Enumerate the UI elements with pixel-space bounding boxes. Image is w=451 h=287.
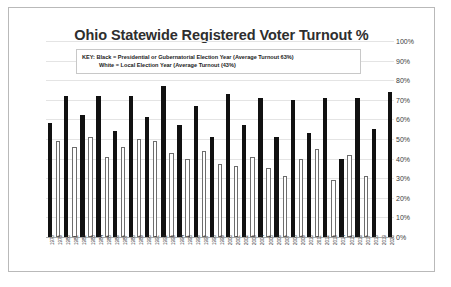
bar-2016 bbox=[355, 98, 359, 237]
bar-1998 bbox=[210, 137, 214, 237]
x-tick-slot: 2012 bbox=[321, 239, 329, 269]
x-tick-slot: 2009 bbox=[297, 239, 305, 269]
bar-1992 bbox=[161, 86, 165, 237]
x-tick-slot: 2001 bbox=[232, 239, 240, 269]
bar-slot bbox=[386, 41, 394, 237]
x-tick-slot: 1984 bbox=[95, 239, 103, 269]
y-tick-label: 20% bbox=[396, 194, 410, 201]
x-tick-slot: 1986 bbox=[111, 239, 119, 269]
x-tick-slot: 2017 bbox=[362, 239, 370, 269]
x-tick-slot: 2013 bbox=[329, 239, 337, 269]
bar-2010 bbox=[307, 133, 311, 237]
y-tick-label: 100% bbox=[396, 38, 414, 45]
bar-1991 bbox=[153, 141, 157, 237]
x-tick-slot: 1998 bbox=[208, 239, 216, 269]
x-tick-label: 2020 bbox=[390, 235, 395, 245]
bar-2001 bbox=[234, 166, 238, 237]
bar-1986 bbox=[113, 131, 117, 237]
bar-1997 bbox=[202, 151, 206, 237]
x-tick-slot: 2015 bbox=[345, 239, 353, 269]
bar-2015 bbox=[347, 155, 351, 237]
bar-2012 bbox=[323, 98, 327, 237]
x-tick-slot: 1996 bbox=[192, 239, 200, 269]
bar-1980 bbox=[64, 96, 68, 237]
bar-1981 bbox=[72, 147, 76, 237]
x-tick-slot: 2000 bbox=[224, 239, 232, 269]
bar-1985 bbox=[105, 157, 109, 237]
bar-1988 bbox=[129, 96, 133, 237]
x-tick-slot: 1994 bbox=[176, 239, 184, 269]
x-tick-slot: 2005 bbox=[265, 239, 273, 269]
bar-2002 bbox=[242, 125, 246, 237]
bar-slot bbox=[370, 41, 378, 237]
x-tick-slot: 2004 bbox=[256, 239, 264, 269]
x-tick-slot: 2010 bbox=[305, 239, 313, 269]
bar-1990 bbox=[145, 117, 149, 237]
bar-slot bbox=[62, 41, 70, 237]
bar-2017 bbox=[364, 176, 368, 237]
x-tick-slot: 1981 bbox=[70, 239, 78, 269]
bar-2004 bbox=[258, 98, 262, 237]
bar-1982 bbox=[80, 115, 84, 237]
bar-1987 bbox=[121, 147, 125, 237]
bar-2008 bbox=[291, 100, 295, 237]
x-tick-slot: 1987 bbox=[119, 239, 127, 269]
y-tick-label: 30% bbox=[396, 175, 410, 182]
x-tick-slot: 1979 bbox=[54, 239, 62, 269]
chart-outer-frame: Ohio Statewide Registered Voter Turnout … bbox=[8, 7, 435, 272]
bar-2003 bbox=[250, 157, 254, 237]
bar-2011 bbox=[315, 149, 319, 237]
bar-1978 bbox=[48, 123, 52, 237]
bar-1993 bbox=[169, 153, 173, 237]
x-tick-slot: 2008 bbox=[289, 239, 297, 269]
bar-1994 bbox=[177, 125, 181, 237]
y-axis: 100%90%80%70%60%50%40%30%20%10%0% bbox=[396, 41, 429, 237]
bar-slot bbox=[362, 41, 370, 237]
x-tick-slot: 1982 bbox=[78, 239, 86, 269]
bar-1999 bbox=[218, 164, 222, 237]
y-tick-label: 60% bbox=[396, 116, 410, 123]
x-tick-slot: 2018 bbox=[370, 239, 378, 269]
x-tick-slot: 2006 bbox=[273, 239, 281, 269]
x-tick-slot: 1997 bbox=[200, 239, 208, 269]
y-tick-label: 40% bbox=[396, 155, 410, 162]
bar-2000 bbox=[226, 94, 230, 237]
x-tick-slot: 2007 bbox=[281, 239, 289, 269]
y-tick-label: 90% bbox=[396, 57, 410, 64]
bar-2014 bbox=[339, 159, 343, 237]
y-tick-label: 50% bbox=[396, 136, 410, 143]
x-tick-slot: 1999 bbox=[216, 239, 224, 269]
x-tick-slot: 1993 bbox=[167, 239, 175, 269]
bar-1995 bbox=[185, 159, 189, 237]
bar-1984 bbox=[96, 96, 100, 237]
y-tick-label: 80% bbox=[396, 77, 410, 84]
x-tick-slot: 2014 bbox=[337, 239, 345, 269]
bar-1996 bbox=[194, 106, 198, 237]
bar-2009 bbox=[299, 159, 303, 237]
x-tick-slot: 2020 bbox=[386, 239, 394, 269]
legend-line-black: KEY: Black = Presidential or Gubernatori… bbox=[82, 53, 355, 61]
bar-2020 bbox=[388, 92, 392, 237]
bar-2006 bbox=[274, 137, 278, 237]
x-tick-slot: 1991 bbox=[151, 239, 159, 269]
x-tick-slot: 1995 bbox=[184, 239, 192, 269]
y-tick-label: 10% bbox=[396, 214, 410, 221]
x-tick-slot: 2003 bbox=[248, 239, 256, 269]
bar-2013 bbox=[331, 180, 335, 237]
bar-2018 bbox=[372, 129, 376, 237]
x-tick-slot: 1983 bbox=[86, 239, 94, 269]
x-tick-slot: 1989 bbox=[135, 239, 143, 269]
x-tick-slot: 2019 bbox=[378, 239, 386, 269]
x-tick-slot: 2002 bbox=[240, 239, 248, 269]
x-axis: 1978197919801981198219831984198519861987… bbox=[46, 239, 394, 269]
bar-slot bbox=[46, 41, 54, 237]
bar-1983 bbox=[88, 137, 92, 237]
chart-legend-key-box: KEY: Black = Presidential or Gubernatori… bbox=[76, 49, 361, 74]
x-tick-slot: 2011 bbox=[313, 239, 321, 269]
bar-2005 bbox=[266, 168, 270, 237]
bar-1989 bbox=[137, 139, 141, 237]
bar-2007 bbox=[283, 176, 287, 237]
bar-slot bbox=[378, 41, 386, 237]
y-tick-label: 0% bbox=[396, 234, 406, 241]
y-tick-label: 70% bbox=[396, 96, 410, 103]
